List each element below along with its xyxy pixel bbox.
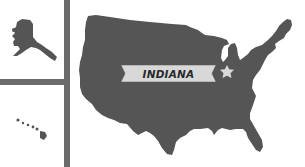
alaska-island xyxy=(12,28,16,32)
alaska-shape xyxy=(12,19,57,61)
state-label-text: INDIANA xyxy=(143,68,195,80)
state-label-banner: INDIANA xyxy=(121,65,216,82)
contiguous-us-shape xyxy=(79,15,292,155)
map-canvas: INDIANA xyxy=(0,0,305,167)
us-map-figure: INDIANA xyxy=(0,0,305,167)
hawaii-shape xyxy=(16,118,47,140)
